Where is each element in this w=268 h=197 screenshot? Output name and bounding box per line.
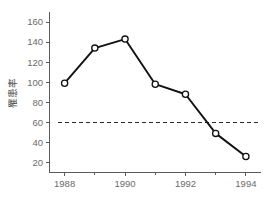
x-tick-label: 1994 — [235, 178, 256, 189]
data-point-marker — [243, 153, 249, 159]
data-point-marker — [92, 45, 98, 51]
y-tick-label: 140 — [27, 36, 43, 47]
y-axis-title: 罹患率 — [7, 78, 18, 108]
y-tick-label: 100 — [27, 77, 43, 88]
chart-container: 20406080100120140160 1988199019921994 罹患… — [0, 0, 268, 197]
y-tick-label: 60 — [32, 117, 43, 128]
data-point-marker — [213, 130, 219, 136]
y-tick-label: 80 — [32, 97, 43, 108]
x-tick-label: 1992 — [175, 178, 196, 189]
y-tick-label: 40 — [32, 137, 43, 148]
y-tick-label: 160 — [27, 16, 43, 27]
y-tick-label: 20 — [32, 157, 43, 168]
y-tick-label: 120 — [27, 57, 43, 68]
line-chart: 20406080100120140160 1988199019921994 罹患… — [0, 0, 268, 197]
x-tick-label: 1990 — [114, 178, 135, 189]
data-point-marker — [182, 91, 188, 97]
y-axis-title-text: 罹患率 — [7, 78, 18, 108]
data-point-marker — [152, 81, 158, 87]
x-tick-label: 1988 — [54, 178, 75, 189]
data-point-marker — [122, 36, 128, 42]
data-point-marker — [62, 80, 68, 86]
